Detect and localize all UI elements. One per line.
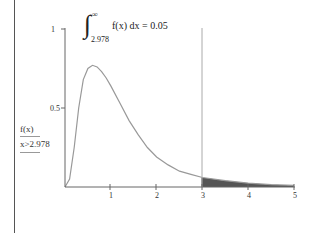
x-tick-label-3: 3 bbox=[201, 191, 205, 200]
x-tick-label-1: 1 bbox=[109, 191, 113, 200]
y-tick-label-1: 1 bbox=[51, 25, 55, 34]
y-tick-label-0.5: 0.5 bbox=[50, 104, 60, 113]
x-tick-label-4: 4 bbox=[247, 191, 251, 200]
density-curve bbox=[65, 65, 294, 187]
plot-area: 1 0.5 1 2 3 4 5 bbox=[0, 0, 313, 233]
x-tick-label-5: 5 bbox=[293, 191, 297, 200]
x-tick-label-2: 2 bbox=[155, 191, 159, 200]
